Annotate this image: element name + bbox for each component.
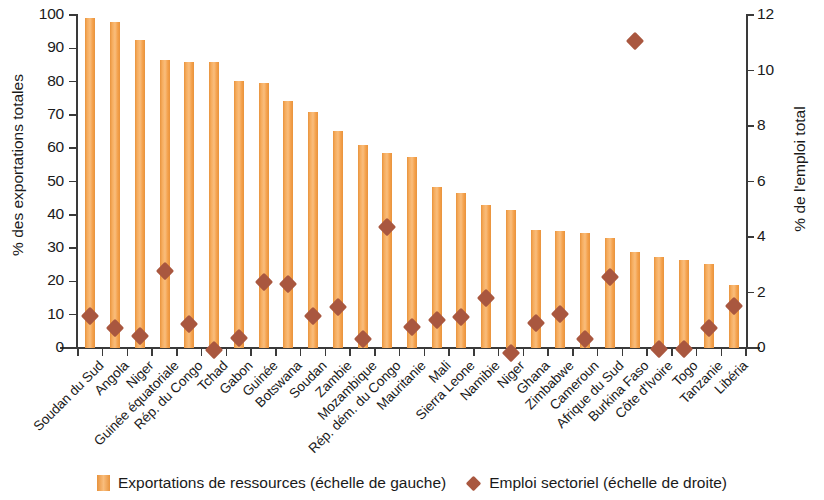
diamond-marker — [601, 268, 619, 286]
bar — [729, 285, 739, 348]
bar — [506, 210, 516, 348]
bar — [283, 101, 293, 348]
y-axis-right-tick-label: 4 — [757, 227, 765, 245]
bar — [654, 257, 664, 348]
y-axis-left-tick-label: 80 — [47, 72, 64, 90]
diamond-marker — [155, 262, 173, 280]
diamond-marker — [131, 327, 149, 345]
y-axis-left-tick — [69, 181, 76, 183]
y-axis-left-tick-label: 50 — [47, 172, 64, 190]
diamond-marker — [551, 305, 569, 323]
y-axis-left-tick-label: 10 — [47, 305, 64, 323]
diamond-marker — [106, 319, 124, 337]
legend-label: Emploi sectoriel (échelle de droite) — [489, 474, 727, 492]
bar-swatch-icon — [97, 475, 110, 491]
bar — [234, 81, 244, 348]
diamond-marker — [403, 318, 421, 336]
diamond-marker — [452, 308, 470, 326]
y-axis-right-tick-label: 12 — [757, 5, 774, 23]
x-axis-category-labels: Soudan du SudAngolaNigerGuinée équatoria… — [0, 352, 824, 472]
diamond-marker — [230, 329, 248, 347]
diamond-marker — [428, 311, 446, 329]
legend-label: Exportations de ressources (échelle de g… — [118, 474, 446, 492]
bar — [135, 40, 145, 348]
y-axis-right-tick-label: 6 — [757, 172, 765, 190]
y-axis-right-tick — [747, 292, 754, 294]
diamond-marker — [378, 218, 396, 236]
y-axis-right-tick-label: 10 — [757, 61, 774, 79]
diamond-marker — [304, 306, 322, 324]
bar — [110, 22, 120, 348]
bar — [555, 231, 565, 348]
y-axis-left-tick — [69, 281, 76, 283]
diamond-swatch-icon — [466, 475, 482, 491]
y-axis-left-tick-label: 60 — [47, 138, 64, 156]
diamond-marker — [329, 298, 347, 316]
bar — [184, 62, 194, 348]
y-axis-left-tick-label: 70 — [47, 105, 64, 123]
bar — [481, 205, 491, 348]
diamond-marker — [700, 319, 718, 337]
x-axis-category-label: Soudan du Sud — [31, 358, 107, 434]
bar — [679, 260, 689, 348]
legend-item: Exportations de ressources (échelle de g… — [97, 474, 446, 492]
diamond-marker — [180, 315, 198, 333]
diamond-marker — [81, 306, 99, 324]
y-axis-left-tick-label: 40 — [47, 205, 64, 223]
bar — [259, 83, 269, 348]
y-axis-left-tick — [69, 247, 76, 249]
bar — [85, 18, 95, 348]
bar — [630, 252, 640, 348]
diamond-marker — [527, 313, 545, 331]
diamond-marker — [279, 275, 297, 293]
y-axis-right-tick — [747, 125, 754, 127]
y-axis-right-tick — [747, 70, 754, 72]
y-axis-left-tick — [69, 114, 76, 116]
bar — [160, 60, 170, 348]
y-axis-left-tick-label: 100 — [39, 5, 64, 23]
diamond-marker — [625, 32, 643, 50]
y-axis-right-title: % de l'emploi total — [791, 9, 809, 329]
y-axis-right-tick — [747, 347, 754, 349]
y-axis-left-title: % des exportations totales — [9, 5, 27, 325]
y-axis-right-tick-label: 8 — [757, 116, 765, 134]
y-axis-left-tick — [69, 147, 76, 149]
bar — [209, 62, 219, 348]
diamond-marker — [254, 273, 272, 291]
resource-exports-employment-chart: % des exportations totales % de l'emploi… — [0, 0, 824, 500]
bar — [605, 238, 615, 348]
y-axis-left-tick — [69, 48, 76, 50]
diamond-marker — [477, 288, 495, 306]
plot-area — [78, 15, 746, 348]
y-axis-right-tick-label: 2 — [757, 283, 765, 301]
bar — [382, 153, 392, 348]
y-axis-right-tick — [747, 181, 754, 183]
y-axis-left-tick — [69, 314, 76, 316]
y-axis-left-tick-label: 20 — [47, 271, 64, 289]
y-axis-left-tick-label: 30 — [47, 238, 64, 256]
y-axis-left-tick — [69, 81, 76, 83]
diamond-marker — [724, 297, 742, 315]
y-axis-left-tick — [69, 214, 76, 216]
y-axis-right-tick — [747, 14, 754, 16]
bar — [358, 145, 368, 348]
y-axis-left-tick-label: 90 — [47, 38, 64, 56]
y-axis-left-tick — [69, 14, 76, 16]
y-axis-left-tick — [69, 347, 76, 349]
diamond-marker — [353, 330, 371, 348]
legend-item: Emploi sectoriel (échelle de droite) — [466, 474, 727, 492]
diamond-marker — [576, 330, 594, 348]
chart-legend: Exportations de ressources (échelle de g… — [0, 474, 824, 492]
y-axis-right-tick — [747, 236, 754, 238]
